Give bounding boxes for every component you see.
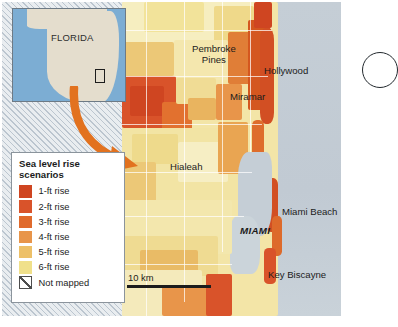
- inset-state-label: FLORIDA: [51, 32, 94, 43]
- legend-item-5ft[interactable]: 5-ft rise: [19, 245, 118, 260]
- legend-swatch-5ft: [19, 246, 32, 259]
- florida-locator-inset[interactable]: FLORIDA: [12, 8, 126, 102]
- scale-bar-label: 10 km: [127, 272, 219, 283]
- legend-item-3ft[interactable]: 3-ft rise: [19, 214, 118, 229]
- legend-label-3ft: 3-ft rise: [39, 217, 70, 227]
- place-label-key-biscayne: Key Biscayne: [268, 270, 326, 281]
- cropped-circle-graphic: [362, 52, 398, 88]
- legend-swatch-6ft: [19, 261, 32, 274]
- place-label-pembroke-pines: Pembroke Pines: [192, 44, 236, 66]
- legend-label-1ft: 1-ft rise: [39, 186, 70, 196]
- place-label-line2: Pines: [202, 54, 226, 65]
- inset-peninsula: [47, 11, 119, 102]
- legend-label-2ft: 2-ft rise: [39, 202, 70, 212]
- legend-swatch-1ft: [19, 185, 32, 198]
- legend-swatch-not-mapped: [19, 276, 32, 289]
- legend-swatch-3ft: [19, 216, 32, 229]
- legend-swatch-4ft: [19, 231, 32, 244]
- legend-swatch-2ft: [19, 200, 32, 213]
- legend-item-4ft[interactable]: 4-ft rise: [19, 229, 118, 244]
- place-label-line1: Pembroke: [192, 43, 236, 54]
- place-label-hialeah: Hialeah: [170, 162, 203, 173]
- legend-label-5ft: 5-ft rise: [39, 247, 70, 257]
- legend-label-6ft: 6-ft rise: [39, 262, 70, 272]
- legend-item-1ft[interactable]: 1-ft rise: [19, 184, 118, 199]
- legend-item-2ft[interactable]: 2-ft rise: [19, 199, 118, 214]
- legend-label-4ft: 4-ft rise: [39, 232, 70, 242]
- map-legend: Sea level rise scenarios 1-ft rise 2-ft …: [11, 152, 125, 303]
- legend-item-not-mapped[interactable]: Not mapped: [19, 275, 118, 290]
- legend-item-6ft[interactable]: 6-ft rise: [19, 260, 118, 275]
- place-label-miami: MIAMI: [240, 226, 270, 237]
- legend-title: Sea level rise scenarios: [19, 158, 111, 181]
- study-area-locator-box: [95, 69, 105, 83]
- scale-bar-line: [127, 285, 211, 288]
- legend-label-not-mapped: Not mapped: [39, 278, 90, 288]
- place-label-miami-beach: Miami Beach: [282, 207, 337, 218]
- scale-bar: 10 km: [127, 272, 219, 288]
- place-label-hollywood: Hollywood: [264, 66, 308, 77]
- place-label-miramar: Miramar: [230, 92, 265, 103]
